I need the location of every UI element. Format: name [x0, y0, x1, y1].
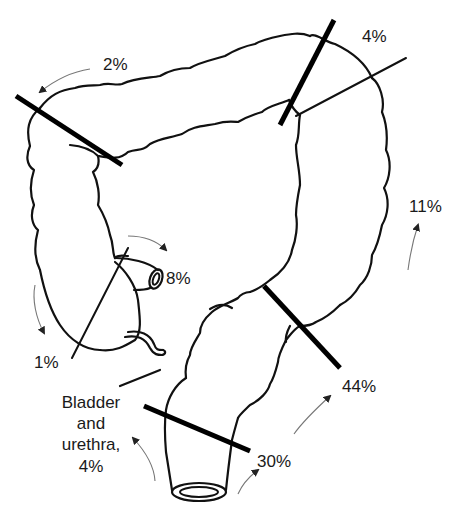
arrow-1pct [34, 285, 44, 333]
label-transverse-2pct: 2% [103, 55, 128, 74]
label-sigmoid-44pct: 44% [342, 377, 376, 396]
label-bladder-line3: urethra, [62, 435, 121, 454]
sigmoid-colon [120, 292, 340, 418]
section-lines [72, 58, 406, 358]
arrow-8pct [128, 236, 166, 250]
label-bladder-line4: 4% [79, 457, 104, 476]
arrow-11pct [408, 225, 418, 270]
label-bladder-line1: Bladder [62, 393, 121, 412]
descending-colon [250, 78, 390, 305]
label-splenic-4pct: 4% [362, 27, 387, 46]
label-bladder-line2: and [77, 414, 105, 433]
terminal-ileum [116, 258, 165, 290]
label-rectum-30pct: 30% [257, 452, 291, 471]
arrow-2pct [40, 69, 90, 92]
splenic-flexure [289, 35, 372, 115]
label-appendix-8pct: 8% [166, 269, 191, 288]
arrow-30pct [238, 470, 258, 494]
colon-diagram: 2% 4% 11% 8% 1% 44% 30% Bladder and uret… [0, 0, 476, 518]
label-descending-11pct: 11% [409, 197, 442, 216]
arrow-bladder [133, 438, 155, 481]
arrow-44pct [294, 396, 330, 434]
label-cecum-1pct: 1% [34, 353, 59, 372]
